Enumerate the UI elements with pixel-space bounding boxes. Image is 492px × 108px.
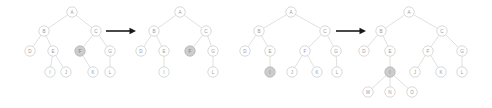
tree-node-circle[interactable] [175, 7, 185, 17]
tree-node-circle[interactable] [201, 26, 211, 36]
tree-node-circle[interactable] [208, 46, 218, 56]
tree-node[interactable]: E [48, 46, 58, 56]
tree-node-circle-highlighted[interactable] [385, 67, 395, 77]
tree-edge [431, 35, 439, 46]
tree-node[interactable]: C [320, 26, 330, 36]
tree-node-circle[interactable] [457, 46, 467, 56]
tree-node-circle[interactable] [363, 87, 373, 97]
tree-node[interactable]: F [423, 46, 433, 56]
tree-node[interactable]: L [457, 67, 467, 77]
tree-node[interactable]: J [287, 67, 297, 77]
tree-node-circle[interactable] [312, 67, 322, 77]
tree-node-circle[interactable] [48, 46, 58, 56]
tree-node-circle[interactable] [25, 46, 35, 56]
tree-node-circle[interactable] [45, 67, 55, 77]
tree-node[interactable]: I [45, 67, 55, 77]
tree-node-circle[interactable] [331, 46, 341, 56]
tree-node[interactable]: D [25, 46, 35, 56]
tree-node[interactable]: D [240, 46, 250, 56]
tree-edge [33, 35, 41, 46]
tree-node-circle[interactable] [300, 46, 310, 56]
tree-node-circle[interactable] [105, 67, 115, 77]
tree-edge [309, 35, 322, 48]
tree-node[interactable]: F [185, 46, 195, 56]
tree-node-circle[interactable] [457, 67, 467, 77]
tree-node-circle-highlighted[interactable] [75, 46, 85, 56]
tree-node[interactable]: G [105, 46, 115, 56]
tree-node-circle[interactable] [376, 26, 386, 36]
tree-node[interactable]: I [385, 67, 395, 77]
tree-node-circle[interactable] [159, 67, 169, 77]
tree-node[interactable]: B [376, 26, 386, 36]
tree-node[interactable]: L [208, 67, 218, 77]
tree-node-circle[interactable] [385, 46, 395, 56]
tree-node[interactable]: J [61, 67, 71, 77]
tree-node-circle[interactable] [286, 7, 296, 17]
tree-node[interactable]: N [385, 87, 395, 97]
tree-node-circle[interactable] [136, 46, 146, 56]
tree-node[interactable]: K [436, 67, 446, 77]
tree-node-circle[interactable] [385, 87, 395, 97]
tree-node-circle[interactable] [149, 26, 159, 36]
tree-node[interactable]: K [88, 67, 98, 77]
tree-node-circle[interactable] [404, 7, 414, 17]
tree-node[interactable]: B [39, 26, 49, 36]
tree-node-circle[interactable] [254, 26, 264, 36]
tree-node-circle[interactable] [208, 67, 218, 77]
tree-node-circle[interactable] [61, 67, 71, 77]
tree-node[interactable]: E [159, 46, 169, 56]
tree-node[interactable]: K [312, 67, 322, 77]
tree-node[interactable]: O [407, 87, 417, 97]
tree-node-circle[interactable] [359, 46, 369, 56]
tree-node-circle[interactable] [320, 26, 330, 36]
tree-node-circle[interactable] [410, 67, 420, 77]
tree-node-circle[interactable] [67, 7, 77, 17]
tree-node[interactable]: G [208, 46, 218, 56]
tree-node-circle[interactable] [437, 26, 447, 36]
tree-node[interactable]: A [286, 7, 296, 17]
tree-node[interactable]: G [457, 46, 467, 56]
tree-node-circle-highlighted[interactable] [265, 67, 275, 77]
tree-node[interactable]: F [300, 46, 310, 56]
tree-node-circle[interactable] [88, 67, 98, 77]
tree-node[interactable]: L [332, 67, 342, 77]
tree-edge [158, 15, 176, 28]
tree-node[interactable]: A [404, 7, 414, 17]
tree-edge [308, 56, 315, 68]
tree-node-circle[interactable] [105, 46, 115, 56]
tree-node-circle[interactable] [436, 67, 446, 77]
tree-node[interactable]: B [254, 26, 264, 36]
tree-edge [156, 36, 161, 47]
tree-node-circle[interactable] [423, 46, 433, 56]
tree-node-circle-highlighted[interactable] [185, 46, 195, 56]
tree-node[interactable]: C [201, 26, 211, 36]
tree-node[interactable]: G [331, 46, 341, 56]
tree-node-circle[interactable] [159, 46, 169, 56]
tree-node[interactable]: J [410, 67, 420, 77]
tree-node[interactable]: E [385, 46, 395, 56]
tree-node[interactable]: C [437, 26, 447, 36]
tree-node-circle[interactable] [240, 46, 250, 56]
tree-node[interactable]: A [175, 7, 185, 17]
transformation-arrow-right [336, 28, 366, 34]
tree-node-circle[interactable] [91, 26, 101, 36]
tree-node[interactable]: I [265, 67, 275, 77]
tree-node[interactable]: L [105, 67, 115, 77]
tree-node[interactable]: D [359, 46, 369, 56]
tree-node[interactable]: I [159, 67, 169, 77]
tree-node-circle[interactable] [265, 46, 275, 56]
tree-node[interactable]: C [91, 26, 101, 36]
tree-node-circle[interactable] [39, 26, 49, 36]
tree-node-circle[interactable] [332, 67, 342, 77]
tree-node[interactable]: F [75, 46, 85, 56]
tree-node-circle[interactable] [407, 87, 417, 97]
tree-edge [418, 55, 426, 67]
tree-node[interactable]: D [136, 46, 146, 56]
tree-node[interactable]: M [363, 87, 373, 97]
tree-node[interactable]: B [149, 26, 159, 36]
tree-node-circle[interactable] [287, 67, 297, 77]
tree-edge [431, 55, 439, 67]
tree-node[interactable]: A [67, 7, 77, 17]
tree-transformation-figure: ABCDEFGIJKLABCDEFGILABCDEFGIJKLABCDEFGIJ… [0, 0, 492, 108]
tree-node[interactable]: E [265, 46, 275, 56]
